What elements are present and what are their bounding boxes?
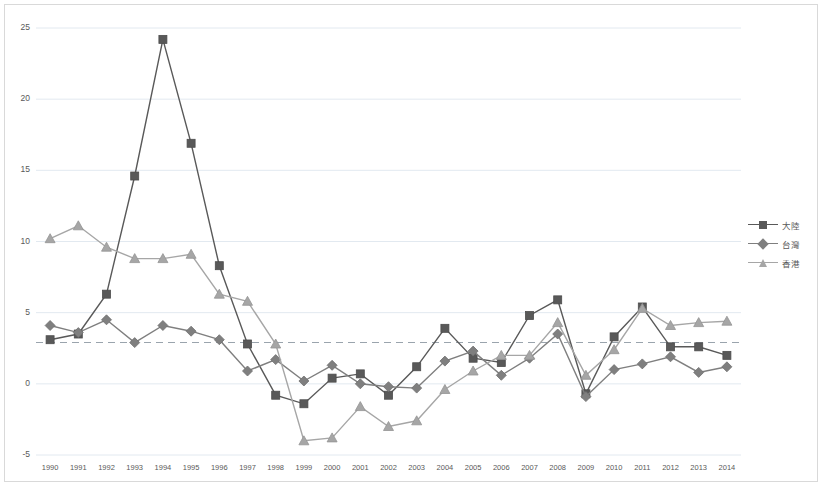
data-point-marker <box>45 321 55 331</box>
legend-swatch <box>748 220 778 230</box>
y-tick-label: 0 <box>6 379 30 388</box>
data-point-marker <box>722 362 732 372</box>
y-tick-label: 15 <box>6 165 30 174</box>
data-point-marker <box>214 289 224 298</box>
legend-item-2: 香港 <box>748 253 800 272</box>
chart-screenshot: -50510152025 199019911992199319941995199… <box>0 0 824 488</box>
data-point-marker <box>384 382 394 392</box>
data-point-marker <box>328 374 336 382</box>
data-point-marker <box>300 400 308 408</box>
legend-marker-triangle-icon <box>759 259 767 267</box>
legend-marker-square-icon <box>759 221 767 229</box>
legend-marker-diamond-icon <box>757 238 768 249</box>
data-point-marker <box>187 139 195 147</box>
data-point-marker <box>413 363 421 371</box>
data-point-marker <box>327 360 337 370</box>
data-point-marker <box>694 367 704 377</box>
x-tick-label: 2014 <box>710 463 744 472</box>
legend-label: 香港 <box>782 257 800 269</box>
legend-item-1: 台灣 <box>748 234 800 253</box>
series-line-0 <box>50 39 727 403</box>
data-point-marker <box>73 221 83 230</box>
data-point-marker <box>131 172 139 180</box>
chart-legend: 大陸台灣香港 <box>748 215 800 272</box>
y-tick-label: 5 <box>6 308 30 317</box>
data-point-marker <box>609 345 619 354</box>
data-point-marker <box>440 385 450 394</box>
data-point-marker <box>526 312 534 320</box>
data-point-marker <box>271 339 281 348</box>
data-point-marker <box>46 336 54 344</box>
data-point-marker <box>385 391 393 399</box>
data-point-marker <box>186 326 196 336</box>
data-point-marker <box>441 324 449 332</box>
data-point-marker <box>272 391 280 399</box>
data-point-marker <box>667 343 675 351</box>
data-point-marker <box>355 402 365 411</box>
data-point-marker <box>666 352 676 362</box>
data-point-marker <box>723 351 731 359</box>
data-point-marker <box>468 366 478 375</box>
data-point-marker <box>102 242 112 251</box>
legend-swatch <box>748 239 778 249</box>
y-tick-label: 20 <box>6 94 30 103</box>
data-point-marker <box>215 262 223 270</box>
data-point-marker <box>637 359 647 369</box>
legend-item-0: 大陸 <box>748 215 800 234</box>
y-tick-label: -5 <box>6 450 30 459</box>
data-point-marker <box>159 35 167 43</box>
data-point-marker <box>553 318 563 327</box>
data-point-marker <box>103 290 111 298</box>
data-point-marker <box>356 370 364 378</box>
data-point-marker <box>45 234 55 243</box>
data-point-marker <box>244 340 252 348</box>
data-point-marker <box>158 321 168 331</box>
data-point-marker <box>695 343 703 351</box>
series-line-2 <box>50 226 727 441</box>
legend-label: 大陸 <box>782 219 800 231</box>
y-tick-label: 25 <box>6 23 30 32</box>
line-chart-plot-area <box>0 0 824 488</box>
y-tick-label: 10 <box>6 237 30 246</box>
data-point-marker <box>610 333 618 341</box>
data-point-marker <box>554 296 562 304</box>
data-point-marker <box>186 249 196 258</box>
legend-label: 台灣 <box>782 238 800 250</box>
legend-swatch <box>748 258 778 268</box>
data-point-marker <box>355 379 365 389</box>
